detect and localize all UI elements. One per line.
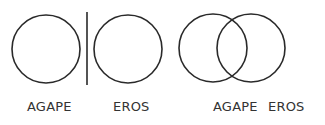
agape-circle-separate — [12, 15, 80, 83]
eros-circle-overlap — [217, 14, 285, 82]
eros-circle-separate — [94, 15, 162, 83]
agape-circle-overlap — [179, 14, 247, 82]
left-panel — [12, 12, 162, 85]
label-agape-right: AGAPE — [213, 99, 258, 114]
label-eros-right: EROS — [268, 99, 305, 114]
label-eros-left: EROS — [113, 99, 150, 114]
right-panel — [179, 14, 285, 82]
label-agape-left: AGAPE — [27, 99, 72, 114]
